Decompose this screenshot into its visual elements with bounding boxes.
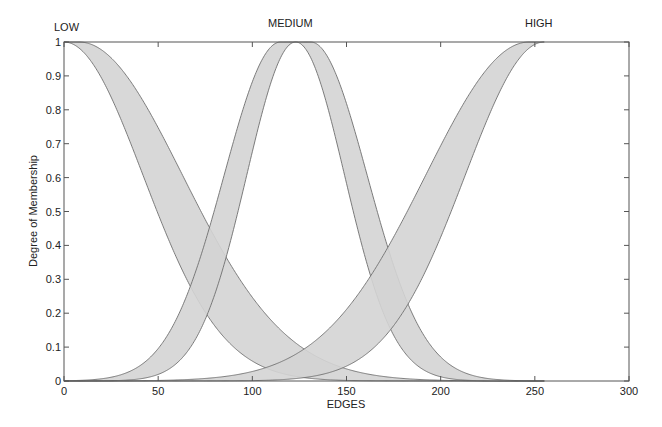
y-tick-label: 0.2 [46, 307, 61, 319]
x-tick-label: 100 [243, 385, 261, 397]
y-axis-label: Degree of Membership [27, 155, 39, 267]
membership-function-chart: 05010015020025030000.10.20.30.40.50.60.7… [0, 0, 662, 427]
y-tick-label: 0.9 [46, 70, 61, 82]
x-tick-label: 0 [61, 385, 67, 397]
y-tick-label: 0.7 [46, 138, 61, 150]
x-tick-label: 300 [620, 385, 638, 397]
y-tick-label: 0 [55, 375, 61, 387]
y-tick-label: 0.4 [46, 239, 61, 251]
x-tick-label: 150 [337, 385, 355, 397]
y-tick-label: 1 [55, 36, 61, 48]
fou-areas [64, 42, 544, 381]
y-tick-label: 0.6 [46, 172, 61, 184]
x-tick-label: 200 [431, 385, 449, 397]
y-tick-label: 0.5 [46, 206, 61, 218]
y-tick-label: 0.8 [46, 104, 61, 116]
y-tick-label: 0.3 [46, 273, 61, 285]
x-axis-label: EDGES [327, 398, 366, 410]
mf-label-low: LOW [54, 21, 80, 33]
x-tick-label: 50 [152, 385, 164, 397]
y-tick-label: 0.1 [46, 341, 61, 353]
mf-label-high: HIGH [525, 17, 553, 29]
mf-label-medium: MEDIUM [268, 17, 313, 29]
x-tick-label: 250 [526, 385, 544, 397]
